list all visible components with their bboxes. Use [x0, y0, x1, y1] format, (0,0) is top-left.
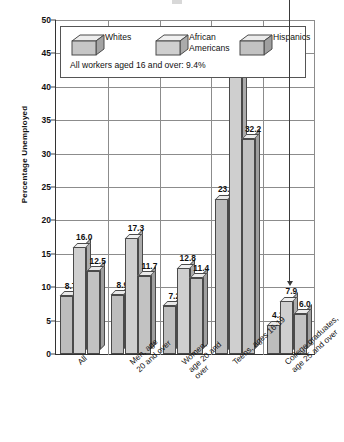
bar-front-face: [215, 199, 228, 354]
top-crop-artifact: [172, 0, 182, 4]
all-workers-annotation: All workers aged 16 and over: 9.4%: [70, 60, 206, 70]
x-axis-category-label: All: [76, 354, 89, 367]
bar-value-label: 16.0: [71, 232, 97, 242]
legend: Whites African Americans: [60, 26, 306, 78]
bar: [87, 266, 105, 354]
gridline: [56, 187, 315, 188]
bar-front-face: [280, 301, 293, 354]
y-tick-label: 5: [25, 316, 51, 326]
bar-front-face: [125, 238, 138, 354]
bar-front-face: [242, 139, 255, 354]
gridline: [56, 220, 315, 221]
bar-front-face: [111, 295, 124, 354]
bar-front-face: [177, 268, 190, 354]
y-tick-label: 25: [25, 182, 51, 192]
bar-front-face: [229, 67, 242, 354]
bar-side-face: [100, 262, 105, 350]
bar-value-label: 17.3: [123, 223, 149, 233]
legend-label-african-americans: African Americans: [189, 32, 230, 53]
annotation-arrow-shaft: [289, 0, 290, 284]
bar-front-face: [60, 296, 73, 354]
legend-label-hispanics: Hispanics: [273, 32, 310, 43]
bar-value-label: 32.2: [240, 124, 266, 134]
y-tick-label: 20: [25, 215, 51, 225]
bar-value-label: 11.4: [188, 263, 214, 273]
y-tick-label: 30: [25, 149, 51, 159]
gridline: [56, 120, 315, 121]
y-tick-label: 15: [25, 249, 51, 259]
bar-value-label: 6.0: [292, 299, 318, 309]
plot-top-border: [55, 20, 315, 21]
y-tick-label: 40: [25, 82, 51, 92]
y-axis-line: [55, 20, 56, 355]
annotation-arrow-head-icon: [287, 281, 293, 286]
bar-front-face: [87, 271, 100, 355]
y-tick-label: 0: [25, 349, 51, 359]
bar-value-label: 7.9: [278, 286, 304, 296]
bar: [242, 134, 260, 354]
y-tick-label: 45: [25, 48, 51, 58]
y-axis-ticks: 05101520253035404550: [0, 0, 51, 442]
legend-cube-icon: [71, 34, 105, 57]
bar-value-label: 11.7: [136, 261, 162, 271]
legend-cube-icon: [155, 34, 189, 57]
y-tick-label: 10: [25, 282, 51, 292]
gridline: [56, 154, 315, 155]
bar-side-face: [255, 130, 260, 350]
legend-label-whites: Whites: [105, 32, 131, 43]
y-tick-label: 35: [25, 115, 51, 125]
bar-value-label: 12.5: [85, 256, 111, 266]
legend-cube-icon: [239, 34, 273, 57]
y-tick-label: 50: [25, 15, 51, 25]
gridline: [56, 87, 315, 88]
